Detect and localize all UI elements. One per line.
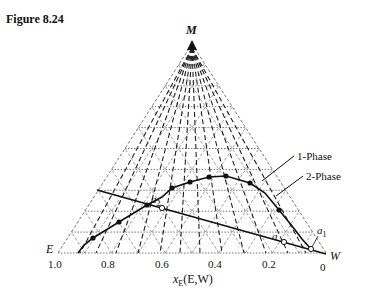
- tick-1-0: 1.0: [48, 258, 62, 270]
- region-label-2-phase: 2-Phase: [306, 170, 341, 182]
- tick-0-2: 0.2: [262, 258, 276, 270]
- leader-1-phase: [262, 156, 294, 181]
- ternary-diagram: M E W 1-Phase 2-Phase a2 a a1 1.0 0.8 0.…: [0, 0, 368, 303]
- leader-a1: [312, 236, 318, 247]
- diagonal-gridlines: [71, 65, 312, 253]
- axis-ticks: 1.0 0.8 0.6 0.4 0.2 0: [48, 258, 326, 273]
- region-label-1-phase: 1-Phase: [297, 150, 332, 162]
- tick-0: 0: [320, 261, 326, 273]
- point-a: [281, 239, 286, 244]
- apex-marker: [187, 40, 197, 50]
- leader-2-phase: [276, 176, 303, 196]
- axis-label: xE(E,W): [172, 272, 213, 288]
- point-label-a: a: [272, 230, 278, 242]
- vertex-label-w: W: [330, 249, 341, 263]
- horizontal-gridlines: [58, 65, 326, 253]
- tick-0-8: 0.8: [101, 258, 115, 270]
- tick-0-6: 0.6: [155, 258, 169, 270]
- point-a1: [308, 246, 313, 251]
- vertex-label-m: M: [185, 23, 197, 37]
- tick-0-4: 0.4: [208, 258, 222, 270]
- point-label-a1: a1: [317, 224, 327, 239]
- radial-lines: [80, 48, 306, 253]
- vertex-label-e: E: [45, 242, 54, 256]
